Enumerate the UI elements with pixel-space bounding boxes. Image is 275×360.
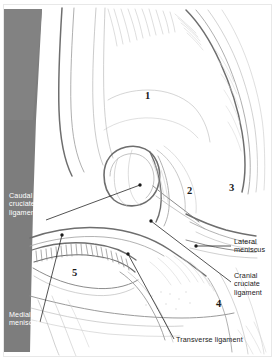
illustration-plate — [4, 5, 271, 356]
dot-transverse-ligament — [126, 252, 129, 255]
callout-number-4: 4 — [216, 299, 221, 310]
anatomical-figure: Caudal cruciate ligament Medial meniscus… — [0, 0, 275, 360]
callout-number-1: 1 — [145, 91, 150, 102]
dot-lateral-meniscus — [194, 244, 197, 247]
callout-number-5: 5 — [72, 268, 77, 279]
label-lateral-meniscus: Lateral meniscus — [234, 238, 265, 255]
stifle-joint-illustration — [0, 0, 275, 360]
label-transverse-ligament: Transverse ligament — [176, 336, 243, 344]
dot-cranial-cruciate — [149, 219, 152, 222]
label-cranial-cruciate-ligament: Cranial cruciate ligament — [234, 272, 262, 297]
callout-number-3: 3 — [229, 183, 234, 194]
dot-medial-meniscus — [60, 233, 63, 236]
dot-caudal-cruciate — [138, 183, 141, 186]
label-medial-meniscus: Medial meniscus — [9, 311, 40, 328]
callout-number-2: 2 — [187, 186, 192, 197]
label-caudal-cruciate-ligament: Caudal cruciate ligament — [9, 192, 37, 217]
